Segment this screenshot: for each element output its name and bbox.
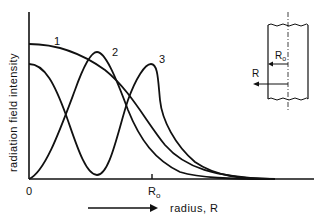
x-axis-label: radius, R	[170, 202, 219, 214]
curve-label-1: 1	[54, 35, 60, 47]
figure-canvas: 1 2 3 0 Ro radiation field intensity rad…	[0, 0, 321, 220]
arrow-head-icon	[150, 204, 158, 212]
curve-label-3: 3	[159, 53, 165, 65]
inset-label-r0: Ro	[275, 50, 286, 62]
curve-3	[29, 64, 275, 179]
inset-label-r: R	[252, 68, 259, 79]
x-tick-r0: Ro	[148, 185, 161, 200]
curve-label-2: 2	[112, 46, 118, 58]
x-tick-origin: 0	[26, 185, 32, 197]
y-axis-label: radiation field intensity	[7, 53, 19, 172]
curve-2	[29, 52, 270, 179]
cylinder-inset	[253, 12, 308, 110]
